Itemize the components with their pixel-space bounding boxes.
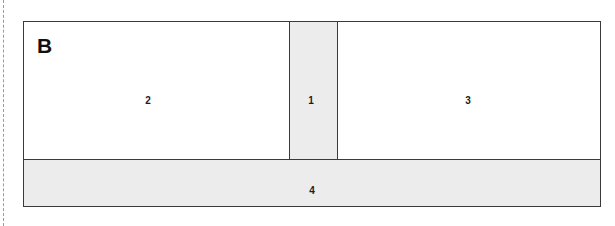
dashed-guide-line (3, 0, 4, 226)
figure-panel-b: B 2 1 3 4 (0, 0, 615, 226)
region-2-left-field (24, 22, 289, 159)
region-1-center-column (289, 22, 338, 159)
region-4-base-bar (24, 159, 600, 207)
region-label-4: 4 (300, 186, 324, 196)
schematic-outline-box (23, 21, 601, 207)
region-3-right-field (338, 22, 600, 159)
region-label-3: 3 (456, 96, 480, 106)
region-label-2: 2 (136, 96, 160, 106)
region-label-1: 1 (299, 96, 323, 106)
panel-letter-label: B (37, 35, 52, 56)
upper-field (24, 22, 600, 159)
